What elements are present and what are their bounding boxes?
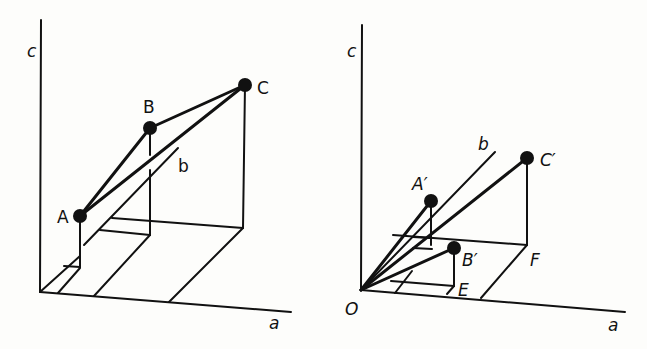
label-a-prime: A′ (411, 174, 428, 194)
edge-ab (80, 128, 150, 216)
label-e: E (458, 280, 469, 300)
label-b-prime: B′ (462, 250, 478, 270)
b-axis-label: b (178, 156, 189, 176)
vector-oa-prime (361, 201, 431, 290)
vector-oc-prime (361, 158, 527, 290)
label-a: A (57, 207, 69, 227)
b-axis (84, 148, 178, 245)
diagram-canvas: c a b A B C c a b O (0, 0, 647, 349)
point-a-prime (424, 194, 438, 208)
point-b (143, 121, 157, 135)
left-diagram: c a b A B C (27, 20, 291, 333)
point-c (238, 78, 252, 92)
a-axis-label: a (269, 313, 279, 333)
edge-ac (80, 85, 245, 216)
floor-line (100, 230, 150, 235)
floor-line (64, 266, 80, 267)
floor-line (94, 235, 150, 296)
floor-line (112, 218, 243, 228)
c-axis-label: c (27, 41, 37, 61)
point-c-prime (520, 151, 534, 165)
a-axis-label: a (608, 315, 618, 335)
floor-line (169, 228, 243, 302)
right-diagram: c a b O A′ B′ C′ E F (345, 25, 625, 335)
b-axis-label: b (478, 134, 489, 154)
c-axis (361, 25, 362, 290)
c-axis (40, 20, 41, 292)
point-a (73, 209, 87, 223)
label-c: C (257, 78, 269, 98)
c-axis-label: c (347, 41, 357, 61)
label-f: F (530, 250, 540, 270)
origin-label: O (345, 299, 358, 319)
label-c-prime: C′ (540, 150, 556, 170)
floor-line (447, 286, 454, 294)
a-axis (40, 292, 291, 312)
label-b: B (143, 97, 155, 117)
floor-line (481, 245, 527, 298)
a-axis (361, 290, 625, 312)
point-b-prime (447, 241, 461, 255)
drop-line-c (243, 85, 245, 228)
